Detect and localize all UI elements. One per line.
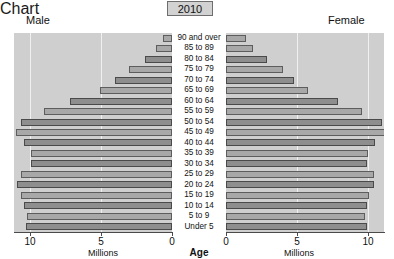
age-label-65-to-69: 65 to 69	[172, 85, 226, 95]
table-row	[14, 159, 172, 169]
male-plot-panel	[14, 33, 172, 232]
bar-right-55-to-59	[226, 108, 362, 115]
bar-left-25-to-29	[21, 171, 172, 178]
table-row	[226, 43, 384, 53]
age-label-40-to-44: 40 to 44	[172, 138, 226, 148]
table-row	[14, 106, 172, 116]
age-label-60-to-64: 60 to 64	[172, 96, 226, 106]
bar-left-60-to-64	[70, 98, 172, 105]
age-label-column: 90 and over85 to 8980 to 8475 to 7970 to…	[172, 33, 226, 232]
bar-left-55-to-59	[44, 108, 172, 115]
tick-label-right-10: 10	[353, 236, 383, 247]
male-bar-rows	[14, 33, 172, 232]
table-row	[14, 211, 172, 221]
bar-left-15-to-19	[21, 192, 172, 199]
age-label-10-to-14: 10 to 14	[172, 201, 226, 211]
age-label-50-to-54: 50 to 54	[172, 117, 226, 127]
bar-right-30-to-34	[226, 160, 367, 167]
table-row	[226, 180, 384, 190]
table-row	[226, 138, 384, 148]
table-row	[226, 54, 384, 64]
age-label-55-to-59: 55 to 59	[172, 106, 226, 116]
tick-label-left-0: 0	[157, 236, 187, 247]
table-row	[226, 33, 384, 43]
bar-left-75-to-79	[129, 66, 172, 73]
table-row	[226, 222, 384, 232]
table-row	[226, 148, 384, 158]
male-axis-title: Millions	[68, 248, 138, 258]
bar-right-50-to-54	[226, 119, 382, 126]
tick-label-left-5: 5	[86, 236, 116, 247]
table-row	[14, 64, 172, 74]
bar-left-85-to-89	[156, 45, 172, 52]
bar-left-10-to-14	[24, 202, 172, 209]
table-row	[14, 148, 172, 158]
age-label-75-to-79: 75 to 79	[172, 64, 226, 74]
bar-right-10-to-14	[226, 202, 367, 209]
tick-label-right-0: 0	[211, 236, 241, 247]
bar-right-60-to-64	[226, 98, 338, 105]
table-row	[14, 127, 172, 137]
age-label-20-to-24: 20 to 24	[172, 180, 226, 190]
age-label-under-5: Under 5	[172, 222, 226, 232]
table-row	[226, 64, 384, 74]
table-row	[14, 201, 172, 211]
table-row	[14, 43, 172, 53]
bar-right-35-to-39	[226, 150, 368, 157]
table-row	[226, 159, 384, 169]
bar-left-5-to-9	[27, 213, 172, 220]
bar-right-40-to-44	[226, 139, 375, 146]
table-row	[226, 211, 384, 221]
bar-left-20-to-24	[17, 181, 172, 188]
table-row	[226, 127, 384, 137]
age-label-70-to-74: 70 to 74	[172, 75, 226, 85]
female-axis-title: Millions	[264, 248, 334, 258]
table-row	[14, 117, 172, 127]
table-row	[226, 190, 384, 200]
female-panel-label: Female	[328, 14, 365, 26]
table-row	[226, 96, 384, 106]
bar-left-90-and-over	[163, 35, 172, 42]
bar-right-75-to-79	[226, 66, 283, 73]
bar-right-5-to-9	[226, 213, 365, 220]
bar-right-15-to-19	[226, 192, 369, 199]
bar-left-50-to-54	[21, 119, 172, 126]
table-row	[14, 169, 172, 179]
table-row	[226, 75, 384, 85]
table-row	[14, 138, 172, 148]
tick-label-left-10: 10	[15, 236, 45, 247]
table-row	[14, 75, 172, 85]
bar-left-30-to-34	[31, 160, 172, 167]
table-row	[14, 180, 172, 190]
population-pyramid-chart: 2010 Male Female 90 and over85 to 8980 t…	[0, 0, 394, 259]
table-row	[14, 85, 172, 95]
table-row	[226, 169, 384, 179]
bar-right-under-5	[226, 223, 367, 230]
table-row	[226, 117, 384, 127]
female-bar-rows	[226, 33, 384, 232]
bar-left-45-to-49	[16, 129, 172, 136]
bar-left-80-to-84	[145, 56, 172, 63]
tick-label-right-5: 5	[282, 236, 312, 247]
age-label-85-to-89: 85 to 89	[172, 43, 226, 53]
bar-right-80-to-84	[226, 56, 267, 63]
age-label-15-to-19: 15 to 19	[172, 190, 226, 200]
female-plot-panel	[226, 33, 384, 232]
age-label-90-and-over: 90 and over	[172, 33, 226, 43]
table-row	[14, 96, 172, 106]
bar-left-70-to-74	[115, 77, 172, 84]
bar-left-40-to-44	[24, 139, 172, 146]
bar-left-35-to-39	[31, 150, 172, 157]
bar-right-25-to-29	[226, 171, 374, 178]
center-axis-title: Age	[164, 247, 234, 258]
year-badge: 2010	[167, 1, 213, 16]
bar-right-70-to-74	[226, 77, 294, 84]
age-label-80-to-84: 80 to 84	[172, 54, 226, 64]
age-label-45-to-49: 45 to 49	[172, 127, 226, 137]
age-label-25-to-29: 25 to 29	[172, 169, 226, 179]
age-label-30-to-34: 30 to 34	[172, 159, 226, 169]
bar-right-20-to-24	[226, 181, 374, 188]
table-row	[226, 106, 384, 116]
bar-right-85-to-89	[226, 45, 253, 52]
table-row	[14, 54, 172, 64]
